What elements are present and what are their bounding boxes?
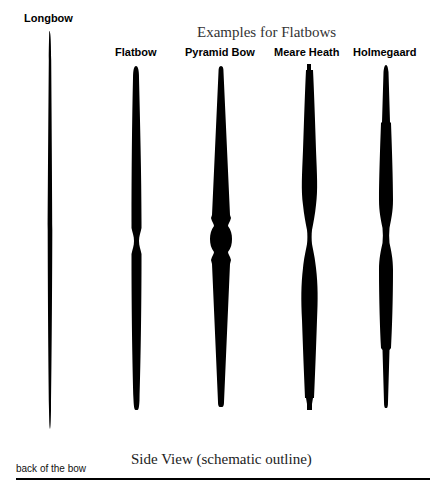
bottom-title: Side View (schematic outline): [131, 452, 312, 467]
meare-heath-shape: [301, 64, 317, 410]
holmegaard-shape: [379, 65, 393, 408]
longbow-shape: [48, 31, 53, 429]
baseline-rule: [16, 478, 430, 480]
pyramid-bow-shape: [210, 66, 232, 407]
bow-outlines: [0, 0, 437, 484]
back-of-bow-caption: back of the bow: [16, 464, 86, 474]
flatbow-shape: [132, 66, 142, 410]
